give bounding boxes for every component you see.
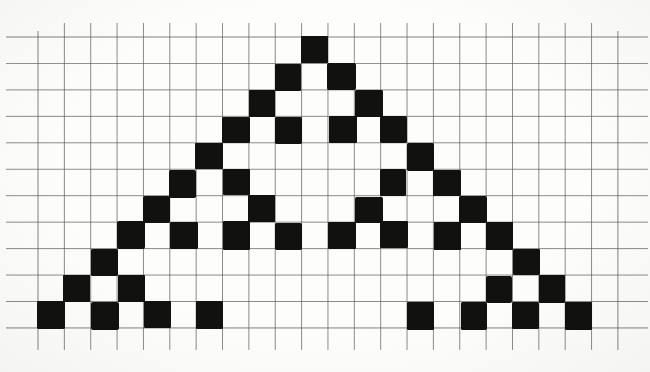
filled-cell — [275, 223, 303, 250]
filled-cell — [118, 275, 145, 303]
filled-cell — [144, 301, 172, 327]
filled-cells-layer — [0, 0, 650, 372]
filled-cell — [565, 302, 592, 330]
filled-cell — [117, 221, 144, 248]
filled-cell — [461, 302, 487, 330]
filled-cell — [275, 64, 302, 91]
filled-cell — [275, 117, 302, 144]
filled-cell — [170, 222, 198, 249]
filled-cell — [195, 143, 222, 170]
filled-cell — [329, 116, 357, 144]
filled-cell — [355, 197, 383, 224]
filled-cell — [222, 117, 250, 143]
filled-cell — [380, 169, 407, 196]
filled-cell — [433, 170, 461, 196]
filled-cell — [486, 222, 513, 249]
filled-cell — [459, 196, 486, 223]
filled-cell — [539, 275, 566, 303]
filled-cell — [248, 195, 275, 221]
filled-cell — [37, 301, 65, 329]
filled-cell — [91, 302, 118, 330]
filled-cell — [407, 143, 434, 171]
filled-cell — [223, 169, 250, 195]
filled-cell — [249, 90, 276, 118]
figure-root — [0, 0, 650, 372]
filled-cell — [327, 63, 355, 89]
filled-cell — [512, 302, 539, 330]
filled-cell — [169, 170, 196, 198]
filled-cell — [434, 222, 460, 250]
filled-cell — [223, 221, 250, 249]
filled-cell — [380, 221, 407, 248]
filled-cell — [301, 36, 328, 63]
filled-cell — [196, 301, 224, 329]
filled-cell — [407, 302, 433, 330]
filled-cell — [513, 249, 540, 276]
filled-cell — [486, 276, 512, 303]
filled-cell — [91, 249, 117, 276]
filled-cell — [143, 196, 169, 223]
filled-cell — [380, 116, 407, 143]
filled-cell — [63, 275, 90, 302]
filled-cell — [328, 222, 356, 249]
filled-cell — [355, 90, 383, 117]
